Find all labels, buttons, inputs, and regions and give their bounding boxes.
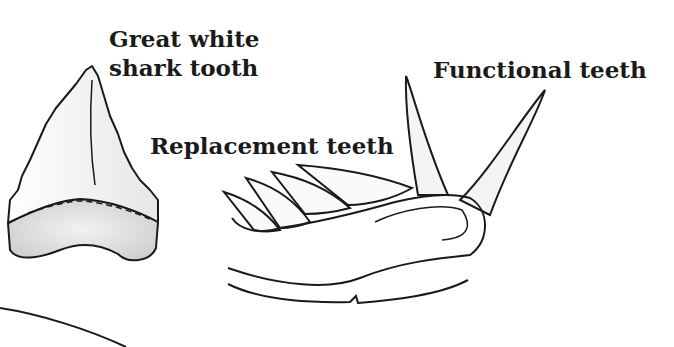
bracket xyxy=(228,280,468,303)
jaw-section xyxy=(224,76,545,303)
great-white-label-line1: Great white xyxy=(109,24,259,53)
great-white-label: Great white shark tooth xyxy=(109,24,259,82)
great-white-label-line2: shark tooth xyxy=(109,53,259,82)
functional-tooth-1 xyxy=(406,76,448,195)
replacement-teeth-label: Replacement teeth xyxy=(150,134,394,157)
functional-teeth-label: Functional teeth xyxy=(433,58,647,81)
illustration xyxy=(0,0,674,347)
jaw-inner-line xyxy=(375,207,467,240)
tooth-crown xyxy=(8,66,158,223)
partial-jaw-outline xyxy=(0,308,126,347)
functional-tooth-2 xyxy=(460,90,545,215)
great-white-tooth xyxy=(8,66,158,260)
shark-teeth-diagram: Great white shark tooth Replacement teet… xyxy=(0,0,674,347)
